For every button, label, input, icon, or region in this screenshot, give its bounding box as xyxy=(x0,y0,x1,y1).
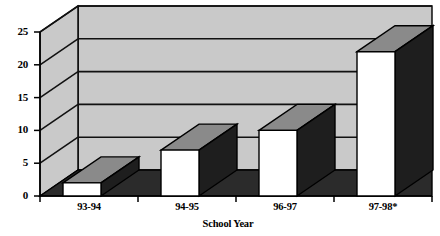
category-label-96-97: 96-97 xyxy=(248,201,322,212)
y-tick-label-10: 10 xyxy=(2,123,28,135)
category-label-93-94: 93-94 xyxy=(52,201,126,212)
bar-97-98 xyxy=(357,26,433,196)
y-tick-label-5: 5 xyxy=(2,156,28,168)
bar-front-face xyxy=(357,52,395,196)
x-axis-title: School Year xyxy=(168,218,288,229)
bar-front-face xyxy=(161,150,199,196)
category-label-97-98: 97-98* xyxy=(346,201,420,212)
y-tick-marks xyxy=(34,32,40,196)
category-label-94-95: 94-95 xyxy=(150,201,224,212)
y-tick-label-0: 0 xyxy=(2,189,28,201)
bar-front-face xyxy=(63,183,101,196)
bar-front-face xyxy=(259,130,297,196)
bar-side-face xyxy=(395,26,433,196)
plot-left-wall xyxy=(40,6,78,196)
y-tick-label-25: 25 xyxy=(2,25,28,37)
y-tick-label-20: 20 xyxy=(2,58,28,70)
bar-chart-3d: 0 5 10 15 20 25 93-94 94-95 96-97 97-98*… xyxy=(0,0,440,236)
y-tick-label-15: 15 xyxy=(2,91,28,103)
